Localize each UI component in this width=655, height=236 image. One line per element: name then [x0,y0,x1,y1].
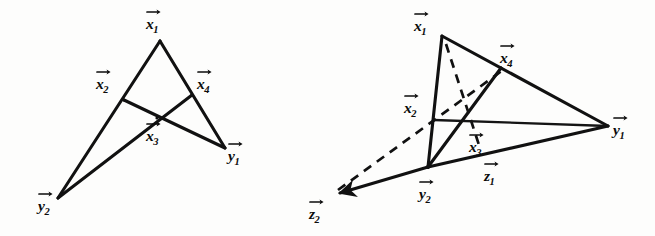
label-subscript: 1 [490,176,495,187]
diagram-canvas [0,0,655,236]
label-right-y2: y2 [419,186,431,202]
label-subscript: 1 [619,130,624,141]
vertex-dot-x3 [155,116,158,119]
vertex-dot-x4 [499,66,502,69]
label-subscript: 2 [103,84,108,95]
label-subscript: 4 [204,84,209,95]
label-left-x2: x2 [96,76,109,92]
label-subscript: 2 [44,206,49,217]
edge-x1-y2 [428,36,442,167]
vertex-dot-x4 [190,93,193,96]
vertex-dot-x2 [122,98,125,101]
label-subscript: 2 [315,214,320,225]
label-right-x1: x1 [414,18,427,34]
label-subscript: 1 [421,26,426,37]
right-diagram [338,36,608,193]
label-left-x4: x4 [197,76,210,92]
dashed-z2-x4 [338,70,503,190]
dashed-x1-z1 [446,44,479,145]
label-left-y1: y1 [228,148,240,164]
label-left-x1: x1 [146,16,159,32]
label-left-y2: y2 [38,198,50,214]
label-subscript: 3 [476,147,481,158]
vertex-dot-y2 [426,165,430,169]
label-subscript: 2 [411,108,416,119]
label-left-x3: x3 [146,128,159,144]
label-right-x3: x3 [469,139,482,155]
label-right-z1: z1 [484,168,495,184]
label-subscript: 3 [153,136,158,147]
label-subscript: 2 [425,194,430,205]
figure-root: x1 x2 x4 x3 y1 y2 x1 [0,0,655,236]
left-diagram [58,41,225,198]
label-subscript: 1 [234,156,239,167]
label-right-y1: y1 [613,122,625,138]
label-subscript: 1 [153,24,158,35]
vertex-dot-x2 [432,118,435,121]
edge-x4-y2 [58,95,192,198]
label-right-x4: x4 [500,50,513,66]
label-right-z2: z2 [309,206,320,222]
label-subscript: 4 [507,58,512,69]
edge-x1-y2 [58,41,160,198]
label-right-x2: x2 [404,100,417,116]
